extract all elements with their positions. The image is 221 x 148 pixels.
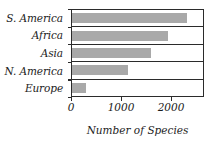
y-axis-category-labels: S. America Africa Asia N. America Europe <box>0 9 67 97</box>
chart-figure: S. America Africa Asia N. America Europe <box>0 0 221 148</box>
y-axis-label-europe: Europe <box>0 79 67 97</box>
x-axis-tick-label: 2000 <box>158 101 185 113</box>
table-row <box>72 62 203 79</box>
y-axis-tick <box>68 62 71 63</box>
bar-asia <box>72 48 151 58</box>
bar-n-america <box>72 65 128 75</box>
bar-africa <box>72 31 168 41</box>
y-axis-tick <box>68 44 71 45</box>
x-axis-tick-label: 0 <box>68 101 75 113</box>
table-row <box>72 80 203 96</box>
y-axis-tick <box>68 9 71 10</box>
y-axis-label-asia: Asia <box>0 44 67 62</box>
y-axis-label-africa: Africa <box>0 27 67 45</box>
bar-s-america <box>72 13 187 23</box>
y-axis-tick <box>68 79 71 80</box>
x-axis-tick-label: 1000 <box>108 101 135 113</box>
bar-europe <box>72 83 86 93</box>
y-axis-tick <box>68 27 71 28</box>
table-row <box>72 27 203 44</box>
y-axis-label-n-america: N. America <box>0 62 67 80</box>
table-row <box>72 10 203 27</box>
table-row <box>72 45 203 62</box>
bar-rows <box>72 10 203 96</box>
plot-area <box>71 9 204 97</box>
x-axis-title: Number of Species <box>71 124 204 136</box>
y-axis-label-s-america: S. America <box>0 9 67 27</box>
